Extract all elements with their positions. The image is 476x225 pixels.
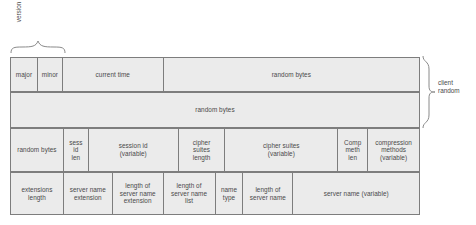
version-label: version bbox=[13, 0, 25, 32]
packet-field: random bytes bbox=[11, 129, 64, 172]
client-random-annotation-group: client random bbox=[422, 55, 476, 131]
packet-field: server name extension bbox=[64, 173, 113, 215]
packet-field: name type bbox=[216, 173, 244, 215]
packet-field: current time bbox=[63, 58, 164, 92]
version-annotation-group: version bbox=[8, 4, 68, 56]
packet-field: extensions length bbox=[11, 173, 64, 215]
packet-row-2: random bytes bbox=[10, 92, 420, 128]
packet-field: major bbox=[11, 58, 38, 92]
packet-field: minor bbox=[38, 58, 63, 92]
packet-field: Comp meth len bbox=[338, 129, 368, 172]
packet-structure-diagram: version majorminorcurrent timerandom byt… bbox=[0, 0, 476, 225]
packet-field: length of server name bbox=[243, 173, 293, 215]
packet-field: compression methods (variable) bbox=[368, 129, 420, 172]
packet-field: session id (variable) bbox=[89, 129, 179, 172]
packet-field: sess id len bbox=[64, 129, 89, 172]
packet-row-1: majorminorcurrent timerandom bytes bbox=[10, 57, 420, 92]
packet-field: length of server name extension bbox=[113, 173, 164, 215]
packet-field: cipher suites (variable) bbox=[225, 129, 338, 172]
packet-field: server name (variable) bbox=[293, 173, 420, 215]
packet-field: length of server name list bbox=[164, 173, 216, 215]
packet-row-3: random bytessess id lensession id (varia… bbox=[10, 128, 420, 172]
packet-field: cipher suites length bbox=[179, 129, 226, 172]
packet-field: random bytes bbox=[11, 93, 420, 128]
client-random-label: client random bbox=[438, 79, 476, 96]
packet-field: random bytes bbox=[164, 58, 420, 92]
version-brace-icon bbox=[10, 40, 66, 54]
client-random-brace-icon bbox=[422, 55, 436, 129]
packet-row-4: extensions lengthserver name extensionle… bbox=[10, 172, 420, 215]
